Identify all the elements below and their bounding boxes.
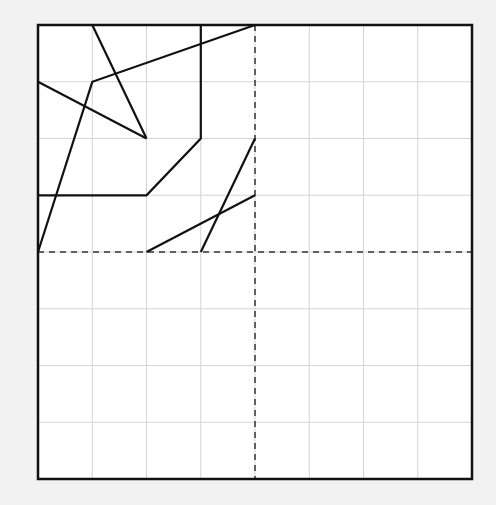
grid-diagram xyxy=(0,0,496,505)
